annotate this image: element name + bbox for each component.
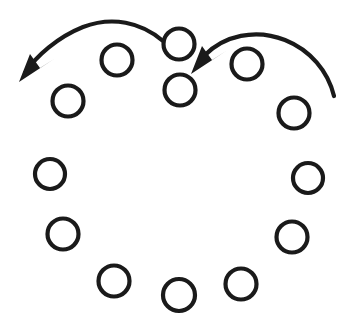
figure-root	[0, 0, 351, 327]
circle-ring-diagram	[0, 0, 351, 327]
